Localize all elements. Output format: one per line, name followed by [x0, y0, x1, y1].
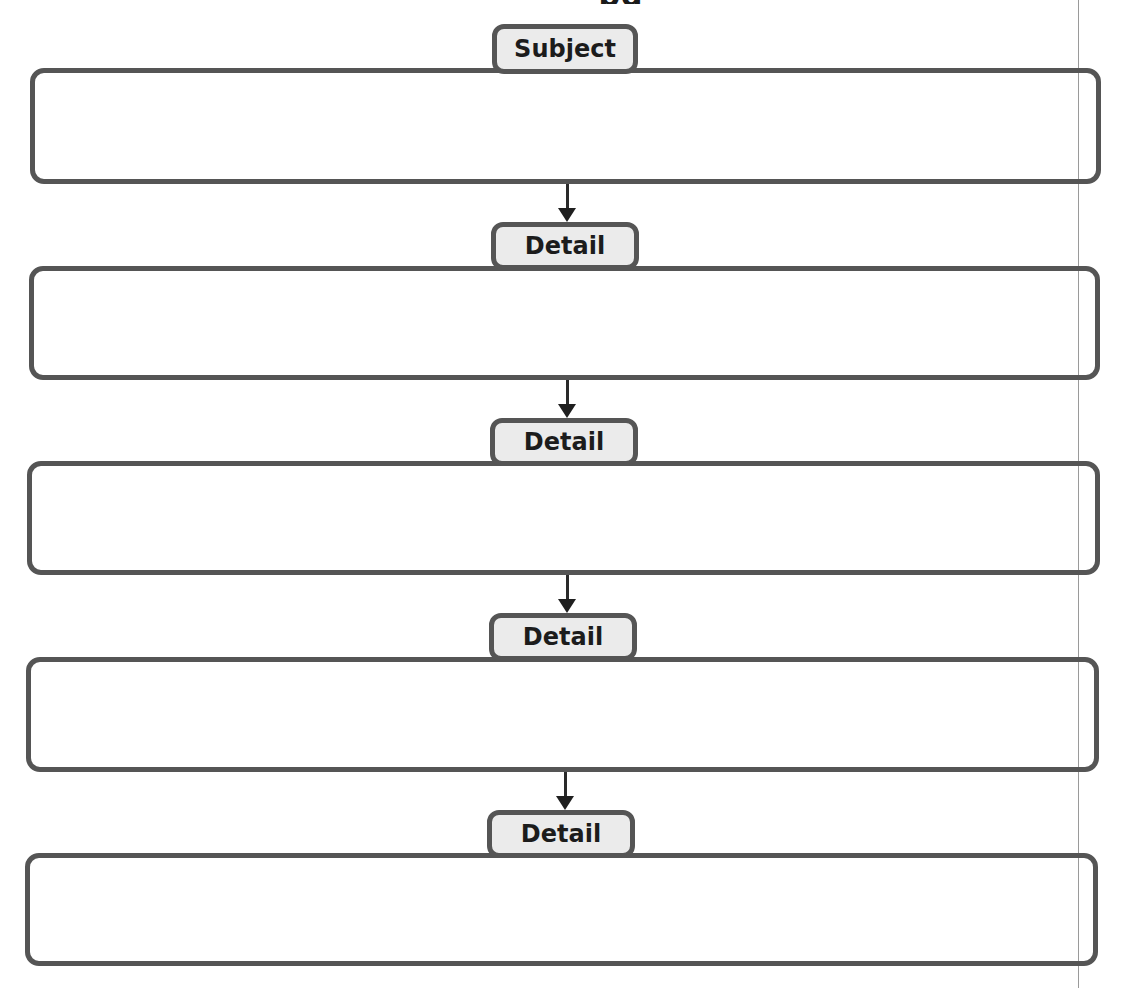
- clipped-heading-text: pg: [599, 0, 644, 4]
- detail-box-4[interactable]: [25, 853, 1098, 966]
- connector-line: [564, 772, 567, 798]
- detail-label-1: Detail: [525, 232, 605, 260]
- detail-box-3[interactable]: [26, 657, 1099, 772]
- arrow-down-icon: [558, 404, 576, 418]
- detail-label-tab-2: Detail: [490, 418, 638, 466]
- detail-label-tab-1: Detail: [491, 222, 639, 270]
- arrow-down-icon: [558, 208, 576, 222]
- connector-line: [566, 575, 569, 601]
- detail-label-tab-3: Detail: [489, 613, 637, 661]
- arrow-down-icon: [556, 796, 574, 810]
- subject-label-tab: Subject: [492, 24, 638, 74]
- detail-box-2[interactable]: [27, 461, 1100, 575]
- subject-box[interactable]: [30, 68, 1101, 184]
- detail-box-1[interactable]: [29, 266, 1100, 380]
- clipped-heading: pg: [0, 0, 1122, 4]
- detail-label-tab-4: Detail: [487, 810, 635, 858]
- detail-label-4: Detail: [521, 820, 601, 848]
- detail-label-2: Detail: [524, 428, 604, 456]
- subject-label: Subject: [514, 35, 616, 63]
- connector-line: [566, 380, 569, 406]
- connector-line: [566, 184, 569, 210]
- arrow-down-icon: [558, 599, 576, 613]
- detail-label-3: Detail: [523, 623, 603, 651]
